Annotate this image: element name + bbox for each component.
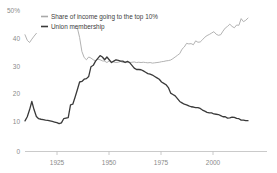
y-axis-tick-labels: 50% 40 30 20 10 0 (7, 7, 20, 155)
x-axis-ticks (57, 152, 213, 156)
y-tick-label: 0 (16, 148, 20, 155)
x-tick-label: 1925 (50, 159, 65, 166)
legend-label-union-membership: Union membership (51, 23, 105, 31)
x-axis-tick-labels: 1925 1950 1975 2000 (50, 159, 221, 166)
x-tick-label: 1950 (102, 159, 117, 166)
y-tick-label: 20 (13, 90, 21, 97)
y-tick-label: 10 (13, 118, 21, 125)
y-tick-label: 50% (7, 7, 20, 14)
line-chart: 50% 40 30 20 10 0 1925 1950 1975 2000 Sh… (0, 0, 277, 173)
x-tick-label: 2000 (206, 159, 221, 166)
series-lines (25, 18, 248, 124)
series-line-union-membership (25, 56, 248, 124)
legend-label-income-share: Share of income going to the top 10% (51, 13, 158, 21)
y-tick-label: 40 (13, 35, 21, 42)
y-tick-label: 30 (13, 63, 21, 70)
legend: Share of income going to the top 10% Uni… (41, 13, 158, 31)
x-tick-label: 1975 (154, 159, 169, 166)
chart-container: 50% 40 30 20 10 0 1925 1950 1975 2000 Sh… (0, 0, 277, 173)
